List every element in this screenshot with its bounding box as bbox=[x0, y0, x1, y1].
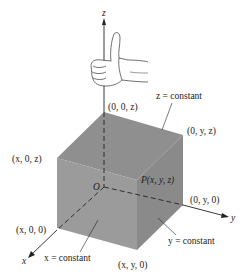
leader-z-constant bbox=[162, 103, 172, 130]
label-x-0-z: (x, 0, z) bbox=[12, 154, 42, 165]
label-y-constant: y = constant bbox=[168, 236, 215, 246]
y-axis-arrowhead bbox=[221, 213, 229, 218]
y-axis-label: y bbox=[230, 213, 236, 223]
z-axis-arrowhead bbox=[102, 18, 106, 25]
origin-label: O bbox=[93, 182, 100, 192]
label-z-constant: z = constant bbox=[156, 91, 202, 101]
right-hand-thumb-icon bbox=[91, 33, 148, 86]
z-axis-label: z bbox=[101, 8, 106, 18]
y-axis bbox=[183, 205, 225, 216]
label-0-y-0: (0, y, 0) bbox=[190, 195, 219, 206]
coordinate-diagram: z y x O (0, 0, z) (x, 0, z) (0, y, z) P(… bbox=[0, 0, 242, 278]
label-x-0-0: (x, 0, 0) bbox=[16, 225, 46, 236]
label-P: P(x, y, z) bbox=[140, 175, 174, 186]
label-x-constant: x = constant bbox=[44, 253, 91, 263]
label-0-0-z: (0, 0, z) bbox=[108, 102, 138, 113]
x-axis-label: x bbox=[21, 256, 27, 266]
label-0-y-z: (0, y, z) bbox=[187, 126, 216, 137]
label-x-y-0: (x, y, 0) bbox=[118, 260, 147, 271]
